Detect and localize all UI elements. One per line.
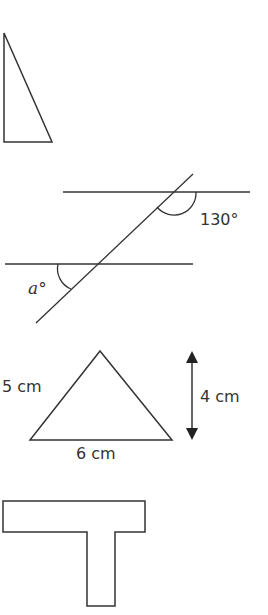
- height-label: 4 cm: [200, 387, 240, 406]
- angle-label-a: a°: [28, 278, 47, 298]
- arrow-up-icon: [186, 351, 198, 363]
- angle-label-130: 130°: [200, 210, 239, 229]
- arrow-down-icon: [186, 428, 198, 440]
- isosceles-triangle-figure: 5 cm 6 cm 4 cm: [2, 351, 240, 463]
- base-label: 6 cm: [76, 444, 116, 463]
- side-label: 5 cm: [2, 377, 42, 396]
- transversal-line: [36, 174, 193, 323]
- angle-arc-a: [57, 264, 71, 289]
- diagram-canvas: 130° a° 5 cm 6 cm 4 cm: [0, 0, 268, 615]
- isosceles-triangle: [30, 351, 172, 440]
- t-shape: [3, 501, 145, 606]
- parallel-lines-figure: 130° a°: [5, 174, 250, 323]
- right-triangle: [4, 33, 52, 142]
- angle-arc-130: [157, 192, 196, 215]
